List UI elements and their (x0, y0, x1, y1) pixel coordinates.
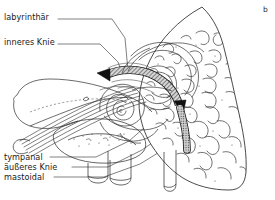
panel-letter-b: b (263, 5, 268, 14)
label-aeusseres-knie: äußeres Knie (4, 163, 57, 172)
anatomical-figure: labyrinthär inneres Knie tympanal äußere… (0, 0, 275, 200)
label-inneres-knie: inneres Knie (4, 38, 55, 47)
label-mastoidal: mastoidal (4, 173, 44, 182)
label-labyrinthaer: labyrinthär (4, 13, 49, 22)
label-tympanal: tympanal (4, 153, 43, 162)
